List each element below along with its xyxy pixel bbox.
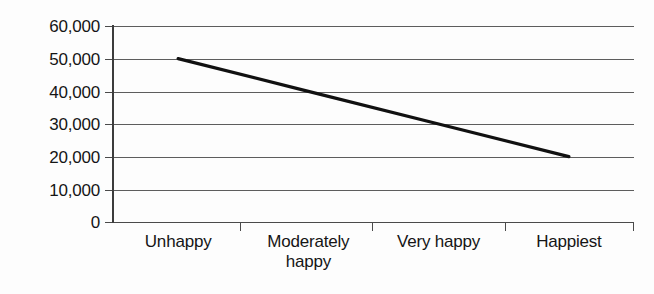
y-axis-tick-label: 10,000: [22, 182, 100, 199]
y-axis-tick-label: 50,000: [22, 51, 100, 68]
x-axis-category-label-line1: Happiest: [504, 232, 634, 252]
x-axis-category-label: Moderately happy: [243, 232, 373, 288]
y-axis-tick-label: 0: [22, 214, 100, 231]
x-axis-baseline: [113, 222, 634, 223]
x-axis-category-label: Very happy: [374, 232, 504, 288]
y-axis-tick-label: 30,000: [22, 116, 100, 133]
plot-area: [113, 26, 634, 222]
x-axis-category-label-line1: Unhappy: [113, 232, 243, 252]
y-axis-tick-label: 60,000: [22, 18, 100, 35]
y-axis-tick-label: 20,000: [22, 149, 100, 166]
x-axis-category-label-line1: Very happy: [374, 232, 504, 252]
gridline-10000: [113, 190, 634, 191]
x-axis-tick-mark: [633, 222, 634, 231]
x-axis-category-label: Unhappy: [113, 232, 243, 288]
gridline-50000: [113, 59, 634, 60]
gridline-60000: [113, 26, 634, 27]
x-axis-category-label-line1: Moderately: [243, 232, 373, 252]
x-axis-category-label: Happiest: [504, 232, 634, 288]
x-axis-tick-mark: [372, 222, 373, 231]
y-axis-tick-label: 40,000: [22, 84, 100, 101]
line-chart: 60,000 50,000 40,000 30,000 20,000 10,00…: [0, 0, 654, 294]
x-axis-category-label-line2: happy: [243, 252, 373, 272]
x-axis-tick-mark: [240, 222, 241, 231]
y-axis-label-group: 60,000 50,000 40,000 30,000 20,000 10,00…: [22, 0, 100, 294]
x-axis-label-group: Unhappy Moderately happy Very happy Happ…: [113, 232, 634, 288]
gridline-40000: [113, 92, 634, 93]
gridline-20000: [113, 157, 634, 158]
gridline-30000: [113, 124, 634, 125]
y-axis-line: [112, 25, 114, 223]
x-axis-tick-mark: [505, 222, 506, 231]
